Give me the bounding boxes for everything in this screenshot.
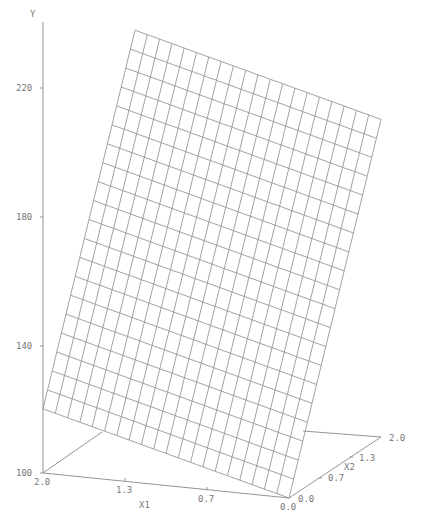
mesh-line (107, 144, 353, 233)
mesh-line (48, 390, 294, 479)
x2-tick-label: 0.7 (328, 473, 344, 483)
x1-axis-label: X1 (139, 500, 150, 510)
x2-tick-label: 2.0 (389, 433, 405, 443)
x1-tick-label: 0.0 (280, 502, 296, 512)
mesh-line (84, 239, 330, 328)
surface-mesh (43, 30, 381, 498)
mesh-line (130, 49, 376, 138)
mesh-line (61, 333, 307, 422)
y-axis-label: Y (30, 9, 36, 19)
y-tick-label: 140 (16, 341, 32, 351)
mesh-line (57, 352, 303, 441)
mesh-line (112, 125, 358, 214)
mesh-line (80, 257, 326, 346)
y-tick-label: 180 (16, 212, 32, 222)
mesh-line (71, 295, 317, 384)
x2-tick-label: 0.0 (298, 494, 314, 504)
floor-axes (43, 431, 381, 498)
mesh-line (126, 68, 372, 157)
mesh-line (89, 220, 335, 309)
mesh-line (121, 87, 367, 176)
y-axis: Y 220 180 140 100 (16, 9, 43, 478)
x1-tick-label: 2.0 (34, 477, 50, 487)
y-tick-label: 220 (16, 83, 32, 93)
mesh-line (103, 163, 349, 252)
y-tick-label: 100 (16, 468, 32, 478)
mesh-line (43, 409, 289, 498)
mesh-line (135, 30, 381, 119)
mesh-line (98, 182, 344, 271)
x2-axis-label: X2 (344, 462, 355, 472)
surface-plot: Y 220 180 140 100 2.0 1.3 0.7 0.0 X1 0.0… (0, 0, 421, 526)
mesh-line (75, 276, 321, 365)
x2-tick-label: 1.3 (359, 453, 375, 463)
mesh-line (117, 106, 363, 195)
x2-axis: 0.0 0.7 1.3 2.0 X2 (298, 433, 405, 504)
floor-back-left-line (43, 432, 102, 473)
x2-axis-line (289, 437, 381, 498)
mesh-line (66, 314, 312, 403)
x1-tick-label: 0.7 (198, 494, 214, 504)
mesh-line (94, 201, 340, 290)
mesh-line (52, 371, 298, 460)
floor-back-right-line (303, 431, 381, 437)
x1-tick-label: 1.3 (116, 485, 132, 495)
x1-axis-line (43, 473, 289, 498)
